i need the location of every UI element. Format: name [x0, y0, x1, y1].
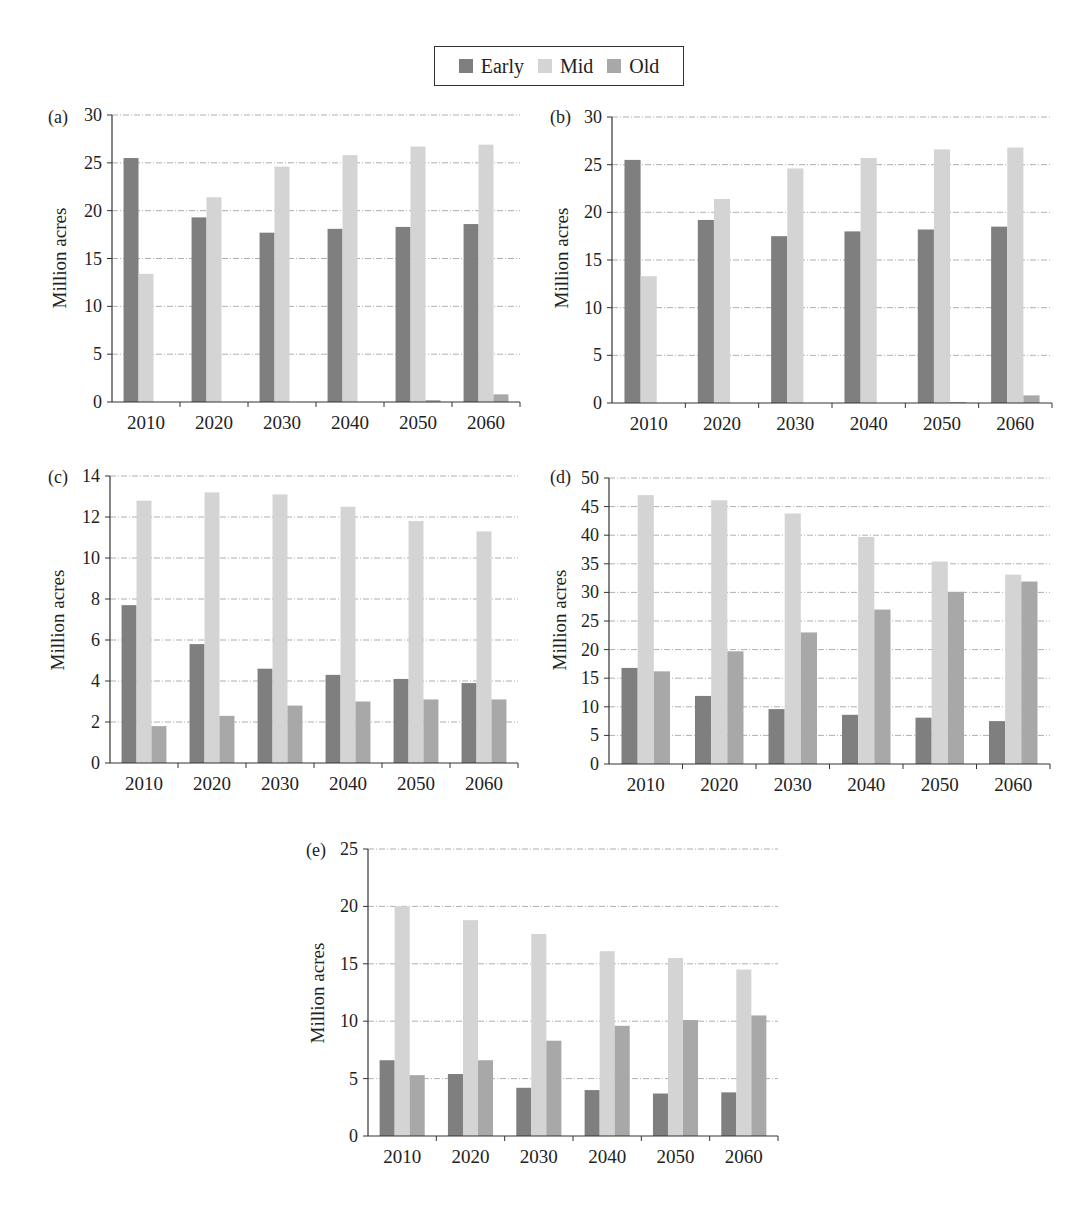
y-tick-label: 0	[349, 1126, 358, 1146]
bar-old	[683, 1020, 698, 1136]
x-tick-label: 2040	[588, 1146, 626, 1167]
bar-old	[615, 1026, 630, 1136]
y-tick-label: 5	[349, 1069, 358, 1089]
bar-early	[721, 1092, 736, 1136]
y-tick-label: 10	[340, 1011, 358, 1031]
y-tick-label: 25	[340, 839, 358, 859]
x-tick-label: 2030	[520, 1146, 558, 1167]
bar-mid	[600, 951, 615, 1136]
bar-early	[380, 1060, 395, 1136]
bar-old	[546, 1041, 561, 1136]
y-tick-label: 15	[340, 954, 358, 974]
bar-early	[516, 1088, 531, 1136]
bar-mid	[463, 920, 478, 1136]
bar-mid	[668, 958, 683, 1136]
bar-old	[478, 1060, 493, 1136]
bar-early	[448, 1074, 463, 1136]
bar-mid	[736, 970, 751, 1136]
x-tick-label: 2010	[383, 1146, 421, 1167]
bar-early	[653, 1094, 668, 1136]
x-tick-label: 2060	[725, 1146, 763, 1167]
bar-chart-svg: 0510152025201020202030204020502060	[0, 0, 1091, 1209]
x-tick-label: 2020	[452, 1146, 490, 1167]
bar-old	[410, 1075, 425, 1136]
y-tick-label: 20	[340, 896, 358, 916]
bar-mid	[531, 934, 546, 1136]
x-tick-label: 2050	[657, 1146, 695, 1167]
bar-early	[585, 1090, 600, 1136]
bar-mid	[395, 906, 410, 1136]
bar-old	[751, 1015, 766, 1136]
